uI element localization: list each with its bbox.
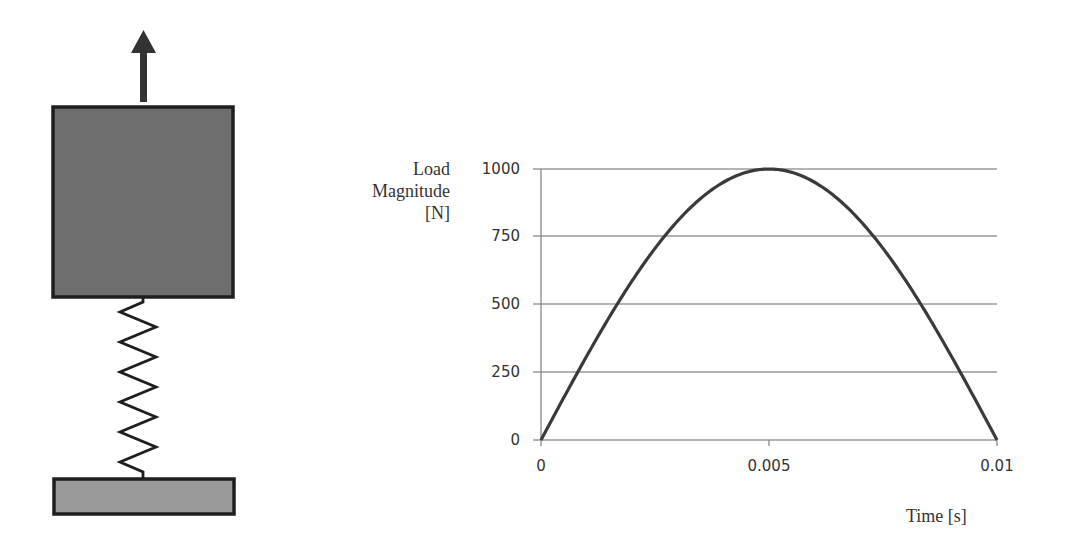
gridlines [533,169,997,440]
axes [541,169,997,446]
x-tick-label: 0.01 [957,457,1037,475]
load-chart-plot [0,0,1077,560]
x-tick-label: 0.005 [729,457,809,475]
x-tick-label: 0 [501,457,581,475]
x-axis-title: Time [s] [906,506,967,527]
